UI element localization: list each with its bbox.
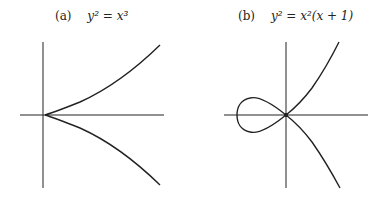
panel-b-node-point (284, 113, 287, 116)
curves-diagram (0, 0, 381, 197)
panel-b-upper-branch (286, 42, 339, 115)
panel-a-upper-branch (45, 45, 160, 115)
panel-b-plot (224, 42, 368, 188)
panel-a-lower-branch (45, 115, 160, 185)
panel-b-lower-branch (286, 115, 340, 188)
panel-a-plot (20, 42, 164, 188)
